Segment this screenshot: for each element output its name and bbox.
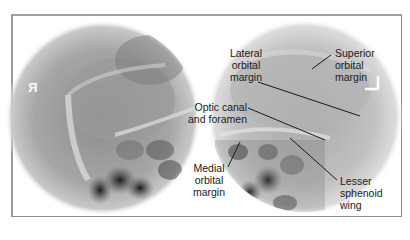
- radiograph-right-orbit: [5, 20, 201, 216]
- label-superior-orbital-margin: Superior orbital margin: [335, 47, 395, 83]
- label-optic-canal-and-foramen: Optic canal and foramen: [180, 101, 247, 125]
- side-marker-r: R: [28, 80, 37, 95]
- label-lateral-orbital-margin: Lateral orbital margin: [220, 47, 272, 83]
- label-medial-orbital-margin: Medial orbital margin: [186, 162, 232, 198]
- label-lesser-sphenoid-wing: Lesser sphenoid wing: [340, 175, 400, 211]
